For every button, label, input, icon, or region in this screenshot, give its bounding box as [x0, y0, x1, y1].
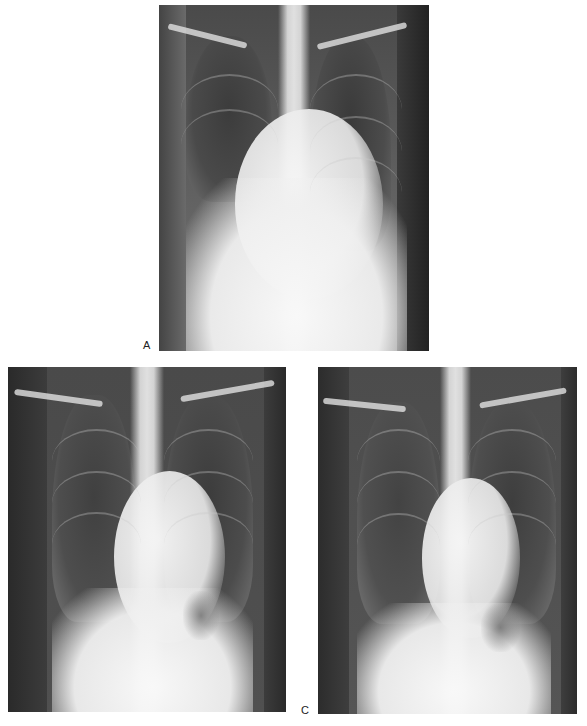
right-arm-shadow — [561, 367, 577, 714]
abdominal-opacity — [357, 603, 551, 714]
panel-label-c: C — [301, 704, 309, 716]
left-arm-shadow — [8, 367, 47, 712]
xray-panel-b — [8, 367, 286, 712]
left-arm-shadow — [159, 5, 186, 351]
right-arm-shadow — [264, 367, 286, 712]
rib — [468, 513, 556, 577]
rib — [357, 513, 440, 577]
xray-panel-c — [318, 367, 577, 714]
xray-panel-a — [159, 5, 429, 351]
rib — [52, 512, 141, 576]
left-arm-shadow — [318, 367, 349, 714]
rib — [310, 157, 402, 228]
gastric-bubble — [481, 603, 520, 652]
rib — [164, 512, 253, 576]
panel-label-a: A — [143, 339, 150, 351]
abdominal-opacity — [52, 588, 252, 712]
gastric-bubble — [183, 591, 219, 639]
rib — [181, 109, 278, 180]
